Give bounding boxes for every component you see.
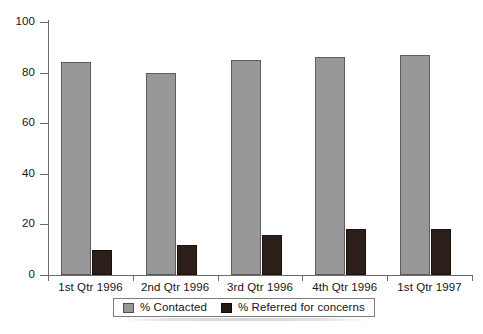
bar-contacted [231, 60, 261, 275]
bar-referred [431, 229, 451, 275]
y-axis-tick-label: 100 [16, 14, 36, 29]
y-axis-tick-label: 80 [22, 65, 35, 80]
y-axis-tick: 100 [40, 22, 48, 23]
chart-legend: % Contacted% Referred for concerns [113, 298, 375, 317]
legend-label: % Referred for concerns [238, 301, 365, 314]
y-axis-tick: 60 [40, 123, 48, 124]
light-gray-swatch [123, 303, 134, 313]
bar-referred [92, 250, 112, 275]
x-axis-line [48, 275, 473, 276]
y-axis-tick: 0 [40, 275, 48, 276]
x-axis-category-label: 3rd Qtr 1996 [218, 280, 303, 294]
bar-referred [262, 235, 282, 275]
scan-artifact [120, 318, 370, 321]
legend-item: % Referred for concerns [221, 301, 365, 314]
y-axis-tick-label: 0 [29, 267, 36, 282]
y-axis-tick-label: 20 [22, 216, 35, 231]
plot-area [48, 22, 472, 275]
y-axis-tick: 40 [40, 174, 48, 175]
y-axis-tick: 20 [40, 224, 48, 225]
y-axis-tick: 80 [40, 73, 48, 74]
x-axis-tick [472, 275, 473, 281]
bar-contacted [61, 62, 91, 275]
bar-chart: 020406080100 1st Qtr 19962nd Qtr 19963rd… [0, 0, 483, 334]
bar-contacted [146, 73, 176, 275]
bar-contacted [315, 57, 345, 275]
bar-referred [177, 245, 197, 275]
x-axis-category-label: 1st Qtr 1997 [387, 280, 472, 294]
dark-swatch [221, 303, 232, 313]
y-axis-tick-label: 40 [22, 166, 35, 181]
x-axis-category-label: 4th Qtr 1996 [302, 280, 387, 294]
bar-contacted [400, 55, 430, 275]
legend-item: % Contacted [123, 301, 207, 314]
legend-label: % Contacted [140, 301, 207, 314]
bar-referred [346, 229, 366, 275]
x-axis-category-label: 2nd Qtr 1996 [133, 280, 218, 294]
x-axis-category-label: 1st Qtr 1996 [48, 280, 133, 294]
y-axis-tick-label: 60 [22, 115, 35, 130]
